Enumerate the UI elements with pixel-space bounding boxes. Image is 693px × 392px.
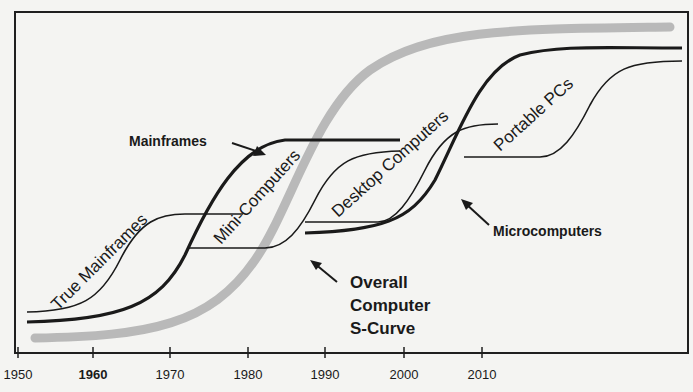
overall-arrow-icon bbox=[310, 260, 337, 282]
true-mainframes-label: True Mainframes bbox=[47, 210, 151, 314]
desktop-computers-label: Desktop Computers bbox=[328, 106, 452, 221]
microcomputers-callout: Microcomputers bbox=[493, 223, 602, 239]
x-tick-label: 2000 bbox=[390, 367, 419, 382]
overall-callout-line1: Overall bbox=[350, 273, 408, 292]
portable-pcs-label: Portable PCs bbox=[490, 74, 577, 155]
overall-callout-line2: Computer bbox=[350, 296, 431, 315]
s-curve-chart: True Mainframes Mini-Computers Desktop C… bbox=[0, 0, 693, 392]
mainframes-callout: Mainframes bbox=[129, 133, 207, 149]
x-tick-label: 1980 bbox=[234, 367, 263, 382]
microcomputers-arrow-icon bbox=[461, 199, 489, 225]
x-tick-label: 1970 bbox=[156, 367, 185, 382]
x-tick-label: 2010 bbox=[468, 367, 497, 382]
x-tick-label: 1950 bbox=[4, 367, 33, 382]
x-tick-label: 1960 bbox=[79, 367, 108, 382]
overall-callout-line3: S-Curve bbox=[350, 319, 415, 338]
x-tick-label: 1990 bbox=[311, 367, 340, 382]
